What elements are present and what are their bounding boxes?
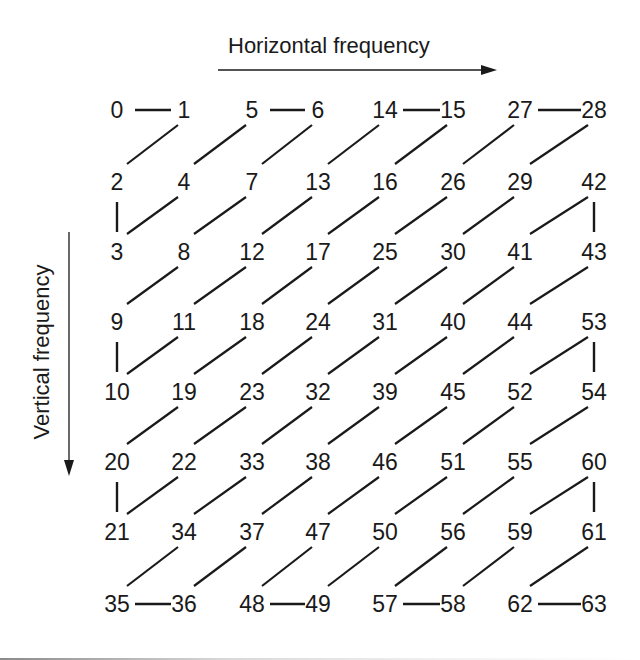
coefficient-index: 24 (305, 311, 331, 334)
coefficient-index: 1 (178, 99, 191, 122)
coefficient-index: 21 (104, 521, 130, 544)
coefficient-index: 45 (440, 381, 466, 404)
coefficient-index: 39 (372, 381, 398, 404)
diagonal-connector (395, 337, 447, 374)
coefficient-index: 0 (111, 99, 124, 122)
diagonal-connector (262, 267, 312, 304)
diagonal-connector (395, 547, 447, 586)
coefficient-index: 36 (171, 593, 197, 616)
coefficient-index: 44 (507, 311, 533, 334)
coefficient-index: 20 (104, 451, 130, 474)
diagonal-connector (194, 337, 246, 374)
coefficient-index: 60 (581, 451, 607, 474)
diagonal-connector (463, 197, 514, 234)
diagonal-connector (328, 547, 379, 586)
diagonal-connector (194, 267, 246, 304)
diagonal-connector (127, 337, 178, 374)
diagonal-connector (127, 125, 178, 164)
diagonal-connector (395, 477, 447, 514)
coefficient-index: 54 (581, 381, 607, 404)
coefficient-index: 33 (239, 451, 265, 474)
diagonal-connector (262, 337, 312, 374)
coefficient-index: 9 (111, 311, 124, 334)
diagonal-connector (262, 125, 312, 164)
coefficient-index: 62 (507, 593, 533, 616)
coefficient-index: 8 (178, 241, 191, 264)
coefficient-index: 50 (372, 521, 398, 544)
coefficient-index: 40 (440, 311, 466, 334)
coefficient-index: 55 (507, 451, 533, 474)
coefficient-index: 61 (581, 521, 607, 544)
coefficient-index: 30 (440, 241, 466, 264)
coefficient-index: 4 (178, 171, 191, 194)
coefficient-index: 27 (507, 99, 533, 122)
diagonal-connector (127, 407, 178, 444)
coefficient-index: 52 (507, 381, 533, 404)
coefficient-index: 32 (305, 381, 331, 404)
coefficient-index: 37 (239, 521, 265, 544)
diagonal-connector (194, 477, 246, 514)
horizontal-arrowhead-icon (481, 65, 497, 75)
diagonal-connector (127, 197, 178, 234)
coefficient-index: 22 (171, 451, 197, 474)
coefficient-index: 29 (507, 171, 533, 194)
coefficient-index: 51 (440, 451, 466, 474)
coefficient-index: 17 (305, 241, 331, 264)
diagonal-connector (328, 125, 379, 164)
diagonal-connector (530, 125, 588, 164)
coefficient-index: 11 (172, 311, 196, 334)
coefficient-index: 34 (171, 521, 197, 544)
coefficient-index: 5 (246, 99, 259, 122)
coefficient-index: 15 (440, 99, 466, 122)
diagonal-connector (463, 125, 514, 164)
diagonal-connector (530, 197, 588, 234)
diagonal-connector (395, 267, 447, 304)
diagonal-connector (127, 477, 178, 514)
diagonal-connector (395, 407, 447, 444)
diagonal-connector (463, 477, 514, 514)
diagonal-connector (328, 477, 379, 514)
diagonal-connector (262, 197, 312, 234)
diagonal-connector (530, 477, 588, 514)
coefficient-index: 57 (372, 593, 398, 616)
coefficient-index: 47 (305, 521, 331, 544)
coefficient-index: 56 (440, 521, 466, 544)
diagonal-connector (262, 407, 312, 444)
coefficient-index: 59 (507, 521, 533, 544)
diagonal-connector (328, 197, 379, 234)
coefficient-index: 12 (239, 241, 265, 264)
diagonal-connector (395, 125, 447, 164)
coefficient-index: 6 (312, 99, 325, 122)
diagonal-connector (194, 125, 246, 164)
coefficient-index: 46 (372, 451, 398, 474)
coefficient-index: 41 (507, 241, 533, 264)
coefficient-index: 53 (581, 311, 607, 334)
diagonal-connector (127, 547, 178, 586)
diagonal-connector (463, 407, 514, 444)
diagonal-connector (328, 337, 379, 374)
diagonal-connector (463, 267, 514, 304)
coefficient-index: 49 (305, 593, 331, 616)
diagonal-connector (530, 337, 588, 374)
diagonal-connector (463, 337, 514, 374)
diagonal-connector (530, 267, 588, 304)
coefficient-index: 38 (305, 451, 331, 474)
coefficient-index: 25 (372, 241, 398, 264)
coefficient-index: 14 (372, 99, 398, 122)
diagonal-connector (530, 407, 588, 444)
diagonal-connector (328, 267, 379, 304)
diagonal-connector (194, 407, 246, 444)
coefficient-index: 58 (440, 593, 466, 616)
diagonal-connector (262, 477, 312, 514)
coefficient-index: 48 (239, 593, 265, 616)
coefficient-index: 19 (171, 381, 197, 404)
diagonal-connector (262, 547, 312, 586)
coefficient-index: 43 (581, 241, 607, 264)
coefficient-index: 16 (372, 171, 398, 194)
coefficient-index: 2 (111, 171, 124, 194)
diagonal-connector (127, 267, 178, 304)
diagonal-connector (194, 547, 246, 586)
coefficient-index: 35 (104, 593, 130, 616)
coefficient-index: 28 (581, 99, 607, 122)
diagonal-connector (194, 197, 246, 234)
